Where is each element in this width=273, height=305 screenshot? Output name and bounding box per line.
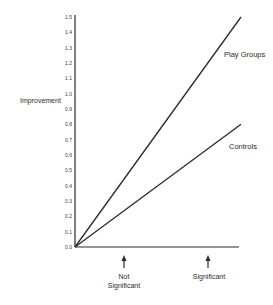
y-tick-label: 0.2 xyxy=(65,213,72,219)
y-tick-label: 0.7 xyxy=(65,137,72,143)
play-groups-label: Play Groups xyxy=(224,50,266,59)
y-tick-label: 1.0 xyxy=(65,91,72,97)
controls-line xyxy=(75,124,241,247)
y-tick-label: 0.3 xyxy=(65,198,72,204)
y-tick-labels: 0.00.10.20.30.40.50.60.70.80.91.01.11.21… xyxy=(65,14,72,250)
y-axis-title: Improvement xyxy=(20,97,61,105)
y-tick-label: 0.0 xyxy=(65,244,72,250)
not-significant-arrow-icon xyxy=(122,255,127,268)
y-tick-label: 0.1 xyxy=(65,229,72,235)
y-tick-label: 0.5 xyxy=(65,167,72,173)
y-tick-label: 0.6 xyxy=(65,152,72,158)
y-tick-label: 1.2 xyxy=(65,60,72,66)
play-groups-line xyxy=(75,17,241,247)
y-tick-label: 1.4 xyxy=(65,29,72,35)
y-tick-label: 0.9 xyxy=(65,106,72,112)
improvement-line-chart: 0.00.10.20.30.40.50.60.70.80.91.01.11.21… xyxy=(0,0,273,305)
y-tick-label: 0.8 xyxy=(65,121,72,127)
y-tick-label: 1.1 xyxy=(65,75,72,81)
significant-label: Significant xyxy=(193,273,225,281)
y-tick-label: 1.3 xyxy=(65,45,72,51)
not-significant-label-line1: Not xyxy=(119,273,130,280)
y-tick-label: 0.4 xyxy=(65,183,72,189)
controls-label: Controls xyxy=(229,142,257,151)
not-significant-label-line2: Significant xyxy=(108,282,140,290)
significant-arrow-icon xyxy=(206,255,211,268)
y-tick-label: 1.5 xyxy=(65,14,72,20)
